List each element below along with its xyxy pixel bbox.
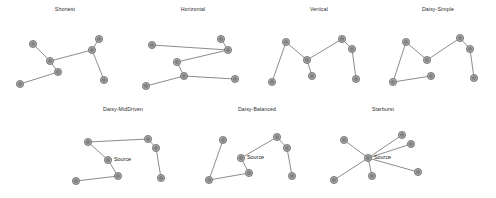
edge-node-c-node-e: [307, 39, 342, 60]
node-c[interactable]: [330, 176, 337, 183]
node-e[interactable]: [144, 135, 151, 142]
node-f[interactable]: [283, 144, 290, 151]
node-d[interactable]: [173, 58, 180, 65]
node-c[interactable]: [217, 35, 224, 42]
node-core-icon: [222, 139, 225, 142]
node-b[interactable]: [340, 136, 347, 143]
node-g[interactable]: [100, 76, 107, 83]
node-core-icon: [285, 41, 288, 44]
node-core-icon: [351, 48, 354, 51]
graph-canvas-horizontal: [132, 14, 254, 96]
node-b[interactable]: [389, 78, 396, 85]
panel-title-daisy-middriven: Daisy-MidDriven: [62, 106, 184, 113]
graph-svg-daisy-middriven: [62, 114, 184, 194]
node-g[interactable]: [352, 75, 359, 82]
graph-svg-horizontal: [132, 14, 254, 96]
node-a[interactable]: [84, 138, 91, 145]
node-b[interactable]: [224, 46, 231, 53]
node-core-icon: [473, 77, 476, 80]
node-g[interactable]: [414, 168, 421, 175]
node-c[interactable]: [303, 56, 310, 63]
node-core-icon: [234, 78, 237, 81]
panel-title-starburst: Starburst: [322, 106, 444, 113]
edge-node-f-node-g: [287, 148, 292, 176]
node-c[interactable]: [54, 68, 61, 75]
node-core-icon: [392, 81, 395, 84]
node-g[interactable]: [231, 75, 238, 82]
node-d[interactable]: [368, 172, 375, 179]
node-d[interactable]: [308, 72, 315, 79]
node-b[interactable]: [268, 78, 275, 85]
node-core-icon: [220, 38, 223, 41]
edge-node-a-node-b: [272, 42, 286, 82]
node-core-icon: [341, 38, 344, 41]
node-core-icon: [430, 75, 433, 78]
node-source[interactable]: [104, 156, 111, 163]
node-e[interactable]: [456, 34, 463, 41]
edge-node-b-node-e: [50, 50, 92, 61]
panel-daisy-simple: Daisy-Simple: [380, 6, 496, 98]
node-f[interactable]: [142, 82, 149, 89]
node-d[interactable]: [114, 172, 121, 179]
panel-title-daisy-balanced: Daisy-Balanced: [196, 106, 318, 113]
node-e[interactable]: [273, 133, 280, 140]
node-core-icon: [227, 49, 230, 52]
node-c[interactable]: [423, 56, 430, 63]
edge-node-c-node-d: [20, 72, 58, 84]
node-d[interactable]: [16, 80, 23, 87]
node-group: [16, 35, 107, 87]
node-core-icon: [75, 180, 78, 183]
node-e[interactable]: [398, 131, 405, 138]
node-group: [389, 34, 477, 85]
node-core-icon: [343, 139, 346, 142]
node-core-icon: [276, 136, 279, 139]
panel-title-daisy-simple: Daisy-Simple: [380, 6, 496, 13]
node-a[interactable]: [402, 38, 409, 45]
node-a[interactable]: [219, 136, 226, 143]
node-a[interactable]: [29, 40, 36, 47]
node-a[interactable]: [148, 41, 155, 48]
node-core-icon: [306, 59, 309, 62]
edge-node-c-node-d: [209, 173, 249, 180]
node-source[interactable]: [364, 154, 371, 161]
node-core-icon: [160, 177, 163, 180]
node-f[interactable]: [152, 144, 159, 151]
node-f[interactable]: [95, 35, 102, 42]
node-f[interactable]: [348, 45, 355, 52]
node-core-icon: [355, 78, 358, 81]
node-a[interactable]: [282, 38, 289, 45]
node-c[interactable]: [205, 176, 212, 183]
node-e[interactable]: [180, 72, 187, 79]
graph-canvas-daisy-middriven: Source: [62, 114, 184, 194]
graph-canvas-vertical: [258, 14, 380, 96]
panel-horizontal: Horizontal: [132, 6, 254, 98]
node-g[interactable]: [288, 172, 295, 179]
node-d[interactable]: [427, 72, 434, 79]
source-label: Source: [374, 154, 391, 160]
node-core-icon: [183, 75, 186, 78]
node-e[interactable]: [88, 46, 95, 53]
node-core-icon: [176, 61, 179, 64]
edge-node-e-node-f: [146, 76, 184, 86]
topology-figure: ShortestHorizontalVerticalDaisy-SimpleDa…: [0, 0, 496, 198]
edge-node-e-node-g: [92, 50, 104, 80]
node-g[interactable]: [157, 174, 164, 181]
node-core-icon: [410, 143, 413, 146]
node-g[interactable]: [470, 74, 477, 81]
node-d[interactable]: [245, 169, 252, 176]
node-core-icon: [240, 157, 243, 160]
node-core-icon: [19, 83, 22, 86]
node-source[interactable]: [237, 154, 244, 161]
node-f[interactable]: [466, 45, 473, 52]
node-core-icon: [107, 159, 110, 162]
node-b[interactable]: [46, 57, 53, 64]
panel-daisy-balanced: Daisy-BalancedSource: [196, 106, 318, 196]
node-e[interactable]: [338, 35, 345, 42]
node-core-icon: [417, 171, 420, 174]
graph-canvas-starburst: Source: [322, 114, 444, 194]
node-core-icon: [32, 43, 35, 46]
node-core-icon: [145, 85, 148, 88]
node-f[interactable]: [407, 140, 414, 147]
node-core-icon: [401, 134, 404, 137]
node-c[interactable]: [72, 177, 79, 184]
